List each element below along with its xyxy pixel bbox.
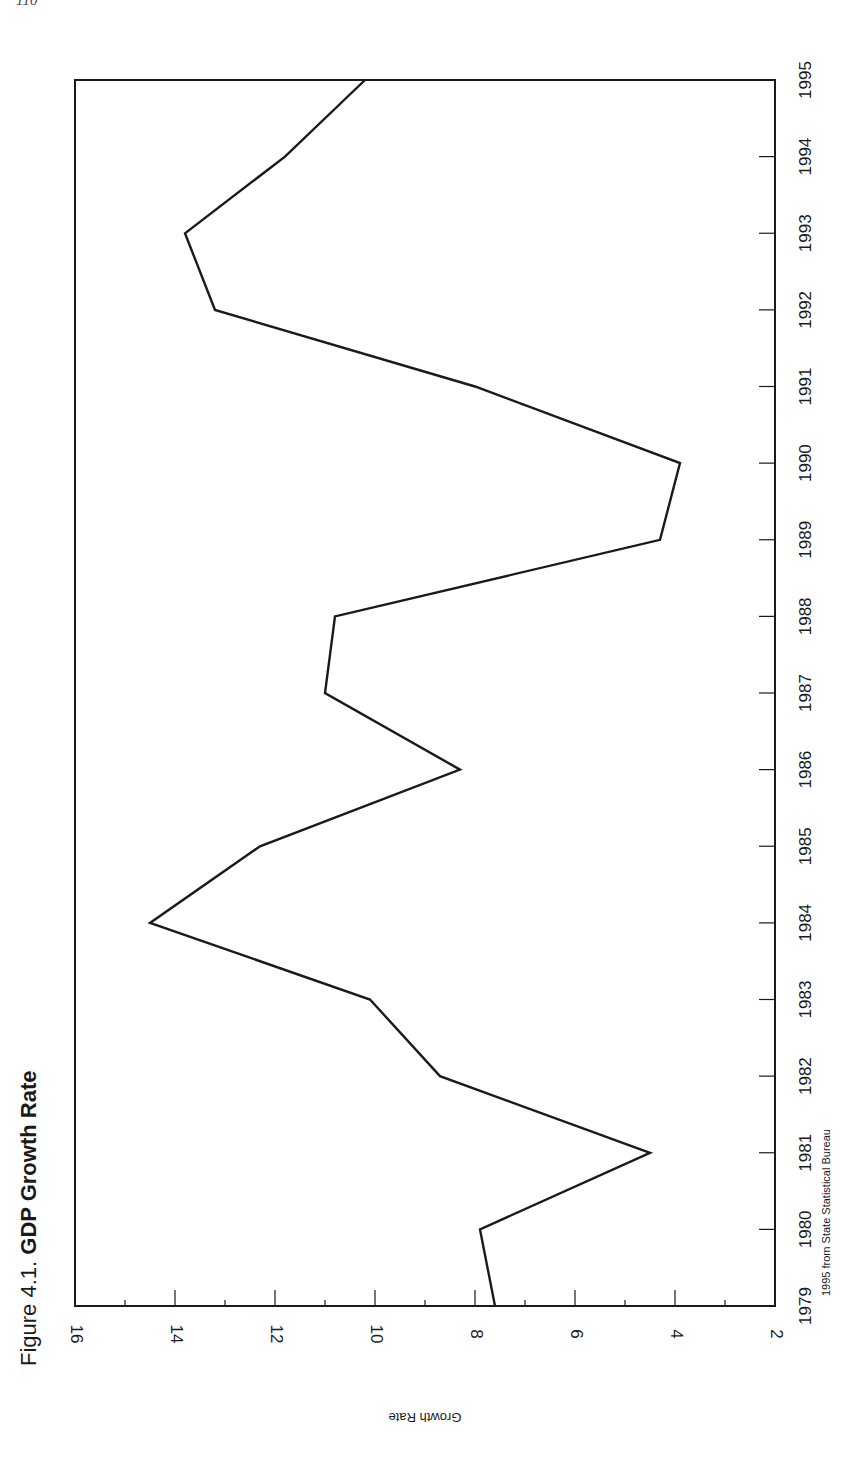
value-tick-label: 12 [267,1325,286,1344]
value-tick-label: 4 [667,1329,686,1338]
year-tick-label: 1990 [796,444,815,482]
gdp-growth-line [150,80,680,1306]
year-tick-label: 1985 [796,827,815,865]
value-tick-label: 6 [567,1329,586,1338]
figure-title-text: GDP Growth Rate [16,1071,41,1255]
year-tick-label: 1984 [796,904,815,942]
value-tick-label: 8 [467,1329,486,1338]
year-tick-label: 1989 [796,521,815,559]
year-tick-label: 1988 [796,597,815,635]
year-tick-label: 1986 [796,751,815,789]
value-axis-label: Growth Rate [389,1410,462,1425]
year-tick-label: 1987 [796,674,815,712]
value-tick-label: 14 [167,1325,186,1344]
figure-label: Figure 4.1. [16,1255,41,1366]
value-tick-label: 10 [367,1325,386,1344]
plot-frame [75,80,775,1306]
value-tick-label: 16 [67,1325,86,1344]
year-tick-label: 1995 [796,61,815,99]
year-tick-label: 1992 [796,291,815,329]
year-tick-label: 1994 [796,138,815,176]
year-tick-label: 1983 [796,981,815,1019]
gdp-growth-chart: 2468101214161979198019811982198319841985… [0,0,864,1458]
year-tick-label: 1981 [796,1134,815,1172]
figure-title: Figure 4.1. GDP Growth Rate [16,1071,41,1366]
value-tick-label: 2 [767,1329,786,1338]
year-tick-label: 1980 [796,1210,815,1248]
year-tick-label: 1991 [796,368,815,406]
year-tick-label: 1979 [796,1287,815,1325]
year-tick-label: 1993 [796,214,815,252]
source-note: 1995 from State Statistical Bureau [820,1129,832,1296]
year-tick-label: 1982 [796,1057,815,1095]
